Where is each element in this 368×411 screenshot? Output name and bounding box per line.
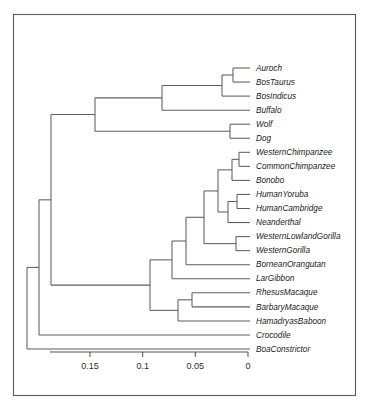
axis-tick-label: 0.05 xyxy=(187,361,205,371)
scale-axis: 0.150.10.050 xyxy=(50,352,251,371)
tip-label: Wolf xyxy=(256,120,273,129)
tip-label: Neanderthal xyxy=(256,218,301,227)
axis-tick-label: 0 xyxy=(245,361,250,371)
tip-label: HumanYoruba xyxy=(256,190,309,199)
tip-label: Dog xyxy=(256,134,271,143)
tip-label: BorneanOrangutan xyxy=(256,260,326,269)
tip-label: HamadryasBaboon xyxy=(256,317,327,326)
tip-label: BosIndicus xyxy=(256,92,296,101)
tree-canvas: 0.150.10.050 AurochBosTaurusBosIndicusBu… xyxy=(0,0,368,411)
axis-tick-label: 0.1 xyxy=(136,361,149,371)
tip-label: WesternGorilla xyxy=(256,246,310,255)
tip-label: Buffalo xyxy=(256,106,282,115)
tip-label: CommonChimpanzee xyxy=(256,162,336,171)
phylogenetic-tree-figure: 0.150.10.050 AurochBosTaurusBosIndicusBu… xyxy=(0,0,368,411)
tip-label: BarbaryMacaque xyxy=(256,303,319,312)
tip-label: Bonobo xyxy=(256,176,285,185)
axis-tick-label: 0.15 xyxy=(81,361,99,371)
tip-label: Auroch xyxy=(255,64,282,73)
tip-label: BoaConstrictor xyxy=(256,345,310,354)
tip-label: BosTaurus xyxy=(256,78,295,87)
tip-label-group: AurochBosTaurusBosIndicusBuffaloWolfDogW… xyxy=(255,64,341,354)
tip-label: HumanCambridge xyxy=(256,204,323,213)
tip-label: RhesusMacaque xyxy=(256,288,318,297)
axis-tick-labels: 0.150.10.050 xyxy=(81,361,250,371)
tree-branches xyxy=(27,68,250,349)
tip-label: Crocodile xyxy=(256,331,291,340)
tip-label: LarGibbon xyxy=(256,274,295,283)
tip-label: WesternLowlandGorilla xyxy=(256,232,341,241)
tip-label: WesternChimpanzee xyxy=(256,148,333,157)
axis-ticks xyxy=(90,352,248,357)
